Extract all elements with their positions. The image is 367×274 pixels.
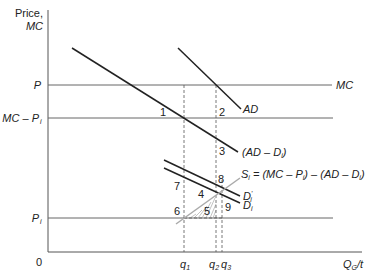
region-5-label: 5	[204, 205, 210, 217]
y-tick-mc-minus-pi: MC – P	[2, 112, 39, 124]
y-tick-pi: P	[32, 212, 40, 224]
x-tick-q3: q3	[221, 258, 231, 271]
y-tick-p: P	[34, 79, 42, 91]
ad-minus-di-curve	[72, 48, 238, 152]
y-axis-label-line2: MC	[26, 20, 43, 32]
x-tick-q1: q1	[180, 258, 190, 271]
y-tick-mc-minus-pi-sub: i	[40, 118, 42, 125]
si-equation-label: Si = (MC – Pi) – (AD – Di)	[241, 168, 365, 181]
y-axis-label-line1: Price,	[15, 7, 43, 19]
x-tick-q2: q2	[209, 258, 219, 271]
ad-minus-di-label: (AD – Di)	[242, 146, 287, 159]
region-6-label: 6	[174, 205, 180, 217]
ad-label: AD	[242, 103, 258, 115]
hatched-region-5	[190, 198, 216, 218]
y-tick-pi-sub: i	[40, 218, 42, 225]
mc-label: MC	[336, 79, 353, 91]
region-2-label: 2	[219, 106, 225, 118]
region-1-label: 1	[160, 106, 166, 118]
region-3-label: 3	[219, 145, 225, 157]
origin-label: 0	[36, 256, 42, 268]
region-8-label: 8	[218, 173, 224, 185]
region-4-label: 4	[198, 188, 204, 200]
x-axis-label: QG/t	[343, 258, 364, 271]
ad-curve	[178, 48, 241, 109]
region-9-label: 9	[225, 201, 231, 213]
economics-diagram: Price, MC P MC – P i P i 0 MC AD (AD – D…	[0, 0, 367, 274]
region-7-label: 7	[174, 180, 180, 192]
